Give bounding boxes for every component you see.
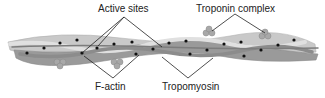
label-tropomyosin: Tropomyosin bbox=[162, 81, 219, 93]
label-troponin-complex: Troponin complex bbox=[196, 3, 275, 15]
troponin-complex-2 bbox=[111, 59, 123, 69]
troponin-leader bbox=[212, 14, 265, 33]
label-active-sites: Active sites bbox=[98, 3, 149, 15]
tropomyosin-leader bbox=[162, 57, 213, 78]
thin-filament-diagram: Active sites Troponin complex F-actin Tr… bbox=[0, 0, 325, 98]
troponin-complex-3 bbox=[203, 26, 215, 36]
label-f-actin: F-actin bbox=[95, 81, 126, 93]
